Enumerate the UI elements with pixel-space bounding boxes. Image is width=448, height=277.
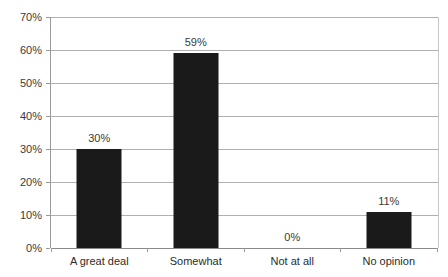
- x-tick-label: Somewhat: [148, 255, 245, 268]
- bar-group: 0%: [244, 17, 341, 248]
- y-tick-label: 20%: [20, 177, 42, 188]
- x-tick-mark: [340, 248, 341, 252]
- bar-group: 59%: [148, 17, 245, 248]
- y-tick-label: 0%: [26, 243, 42, 254]
- bar[interactable]: [77, 149, 122, 248]
- bar-value-label: 0%: [284, 232, 300, 243]
- bar[interactable]: [366, 212, 411, 248]
- x-axis: A great deal Somewhat Not at all No opin…: [51, 255, 437, 275]
- y-tick-label: 70%: [20, 12, 42, 23]
- x-tick-mark: [147, 248, 148, 252]
- bar-value-label: 30%: [88, 133, 110, 144]
- bar-value-label: 59%: [185, 37, 207, 48]
- y-tick-label: 50%: [20, 78, 42, 89]
- bar-group: 30%: [51, 17, 148, 248]
- y-tick-label: 60%: [20, 45, 42, 56]
- bar-chart: 70% 60% 50% 40% 30% 20% 10% 0% 30% 59%: [0, 0, 448, 277]
- x-tick-label: A great deal: [51, 255, 148, 268]
- x-tick-mark: [437, 248, 438, 252]
- y-tick-label: 40%: [20, 111, 42, 122]
- y-tick-label: 10%: [20, 210, 42, 221]
- bar-group: 11%: [341, 17, 438, 248]
- y-tick-label: 30%: [20, 144, 42, 155]
- y-axis: 70% 60% 50% 40% 30% 20% 10% 0%: [0, 0, 46, 277]
- x-tick-label: No opinion: [341, 255, 438, 268]
- bar[interactable]: [173, 53, 218, 248]
- x-tick-mark: [51, 248, 52, 252]
- bars-layer: 30% 59% 0% 11%: [51, 17, 437, 248]
- x-tick-label: Not at all: [244, 255, 341, 268]
- bar-value-label: 11%: [378, 196, 399, 207]
- x-tick-mark: [244, 248, 245, 252]
- y-tick-mark: [46, 248, 50, 249]
